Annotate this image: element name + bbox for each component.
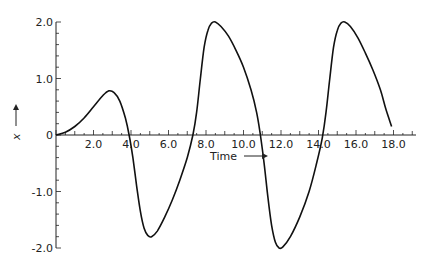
y-tick-label: -1.0 (32, 186, 53, 199)
x-axis-label: Time (209, 150, 237, 163)
x-axis (56, 130, 416, 135)
y-tick-labels: 2.01.00-1.0-2.0 (32, 16, 53, 255)
y-axis-label: x (10, 133, 23, 141)
y-axis-title: x (10, 104, 23, 141)
x-axis-arrowhead-icon (262, 153, 268, 159)
y-axis-arrowhead-icon (13, 104, 19, 110)
y-tick-label: 1.0 (36, 73, 54, 86)
x-tick-label: 16.0 (344, 138, 369, 151)
y-tick-label: 0 (46, 129, 53, 142)
x-tick-label: 18.0 (381, 138, 406, 151)
x-tick-label: 12.0 (269, 138, 294, 151)
x-tick-label: 14.0 (306, 138, 331, 151)
x-tick-labels: 2.04.06.08.010.012.014.016.018.0 (85, 138, 406, 151)
x-tick-label: 2.0 (85, 138, 103, 151)
x-tick-label: 6.0 (160, 138, 178, 151)
y-tick-label: 2.0 (36, 16, 54, 29)
chart: 2.01.00-1.0-2.0 2.04.06.08.010.012.014.0… (0, 0, 427, 265)
x-axis-title: Time (209, 150, 268, 163)
y-tick-label: -2.0 (32, 242, 53, 255)
